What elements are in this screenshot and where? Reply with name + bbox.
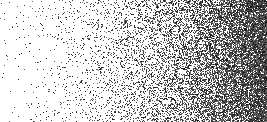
stipple-gradient-image: [0, 0, 267, 122]
